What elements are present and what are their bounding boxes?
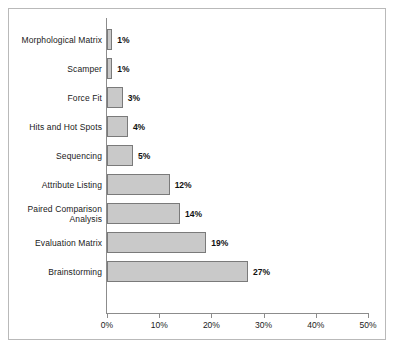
y-axis-line [106,18,107,313]
bar-value-label: 5% [138,151,150,161]
bar-value-label: 1% [117,35,129,45]
x-axis-tick [368,313,369,318]
category-label: Sequencing [6,151,102,161]
bar-chart: Morphological Matrix1%Scamper1%Force Fit… [0,0,394,347]
bar-value-label: 4% [133,122,145,132]
bar-row: Brainstorming27% [0,257,394,286]
bar [107,58,112,79]
x-axis-tick-label: 50% [359,320,376,330]
category-label: Force Fit [6,93,102,103]
x-axis-tick [211,313,212,318]
x-axis-tick [159,313,160,318]
bar [107,232,206,253]
x-axis-tick-label: 10% [151,320,168,330]
x-axis-tick [316,313,317,318]
bar-group: 19% [107,232,228,253]
x-axis-tick-label: 20% [203,320,220,330]
bar-group: 1% [107,29,130,50]
bar-row: Paired Comparison Analysis14% [0,199,394,228]
category-label: Morphological Matrix [6,35,102,45]
bar-group: 12% [107,174,192,195]
bar [107,203,180,224]
category-label: Brainstorming [6,267,102,277]
x-axis-tick [107,313,108,318]
bar-row: Hits and Hot Spots4% [0,112,394,141]
bar-group: 14% [107,203,202,224]
bar-value-label: 3% [128,93,140,103]
bar-rows: Morphological Matrix1%Scamper1%Force Fit… [0,18,394,313]
bar [107,145,133,166]
x-axis-line [106,313,369,314]
bar-value-label: 1% [117,64,129,74]
bar [107,29,112,50]
x-axis-tick-label: 30% [255,320,272,330]
category-label: Hits and Hot Spots [6,122,102,132]
bar-row: Evaluation Matrix19% [0,228,394,257]
bar-value-label: 19% [211,238,228,248]
category-label: Evaluation Matrix [6,238,102,248]
x-axis-tick-label: 40% [307,320,324,330]
category-label: Scamper [6,64,102,74]
category-label: Attribute Listing [6,180,102,190]
bar-value-label: 12% [175,180,192,190]
x-axis-tick-label: 0% [101,320,113,330]
bar-value-label: 27% [253,267,270,277]
bar-group: 3% [107,87,140,108]
bar-row: Scamper1% [0,54,394,83]
bar [107,116,128,137]
x-axis-tick [264,313,265,318]
category-label: Paired Comparison Analysis [6,204,102,224]
bar-row: Attribute Listing12% [0,170,394,199]
bar-row: Sequencing5% [0,141,394,170]
bar-row: Force Fit3% [0,83,394,112]
bar-group: 5% [107,145,150,166]
bar-value-label: 14% [185,209,202,219]
bar-group: 4% [107,116,145,137]
bar-group: 1% [107,58,130,79]
bar-group: 27% [107,261,270,282]
bar [107,261,248,282]
bar [107,174,170,195]
bar-row: Morphological Matrix1% [0,25,394,54]
bar [107,87,123,108]
